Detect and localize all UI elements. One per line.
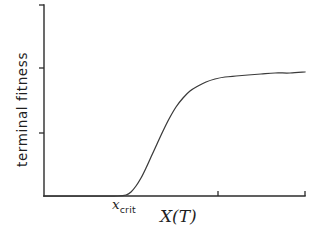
- y-axis-label: terminal fitness: [15, 7, 29, 167]
- x-axis-label: X(T): [160, 206, 250, 226]
- terminal-fitness-curve: [44, 72, 305, 196]
- x-crit-subscript: crit: [120, 204, 136, 215]
- figure-panel: terminal fitness X(T) xcrit: [0, 0, 327, 242]
- x-crit-annotation: xcrit: [112, 197, 136, 217]
- x-crit-base: x: [112, 196, 120, 212]
